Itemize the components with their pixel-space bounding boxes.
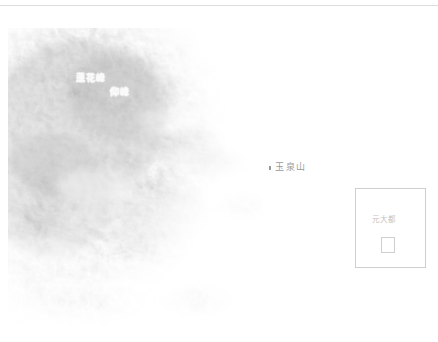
inset-city-square-glyph [381, 237, 395, 253]
inset-locator-box: 元大都 [355, 188, 426, 268]
map-label-yangfeng: 仰峰 [110, 88, 130, 97]
map-label-lianhuafeng: 蓮花峰 [76, 74, 106, 83]
terrain-hillshade-layer [0, 0, 438, 342]
inset-title-yuandadu: 元大都 [372, 213, 396, 224]
map-canvas: 蓮花峰 仰峰 玉泉山 元大都 [0, 0, 438, 342]
place-marker-yuquanshan [269, 166, 271, 170]
map-label-yuquanshan: 玉泉山 [275, 163, 307, 172]
